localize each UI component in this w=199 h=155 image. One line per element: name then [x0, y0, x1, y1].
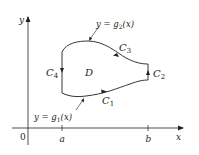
- c4-label: C4: [46, 67, 59, 80]
- curve-c3-upper: [62, 41, 148, 64]
- lower-function-label: y = g1(x): [33, 112, 72, 123]
- y-axis-label: y: [18, 15, 25, 25]
- c3-label: C3: [119, 42, 131, 55]
- c2-label: C2: [153, 68, 165, 81]
- c4-arrow-icon: [60, 68, 64, 73]
- g1-leader: [76, 100, 83, 110]
- c3-arrow-icon: [113, 53, 119, 57]
- tick-a-label: a: [60, 134, 65, 144]
- c1-arrow-icon: [101, 90, 107, 94]
- region-label: D: [84, 67, 93, 78]
- upper-function-label: y = g2(x): [95, 19, 134, 30]
- origin-label: 0: [20, 132, 26, 142]
- c1-label: C1: [102, 95, 114, 108]
- tick-b-label: b: [146, 134, 152, 144]
- x-axis-label: x: [176, 132, 181, 142]
- diagram-canvas: y x 0 a b D C1 C2 C3 C4 y = g2(x) y = g1…: [0, 0, 199, 155]
- g2-leader-arrow-icon: [89, 37, 92, 41]
- g2-leader: [90, 28, 98, 39]
- c2-arrow-icon: [146, 70, 150, 75]
